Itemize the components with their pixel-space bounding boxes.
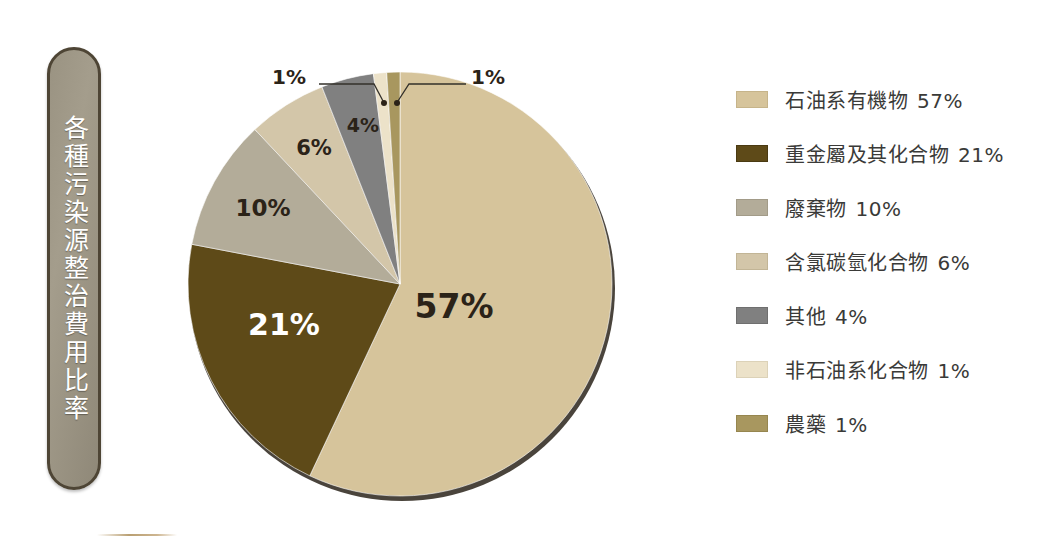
- legend-percent-value: 4%: [835, 305, 868, 329]
- pie-chart: 57%21%10%6%4% 1%1%: [178, 60, 628, 520]
- legend-label: 石油系有機物57%: [785, 85, 963, 114]
- page-hairline-divider: [97, 534, 177, 536]
- legend-percent-value: 1%: [938, 359, 971, 383]
- pie-slice-value-label: 6%: [296, 136, 332, 160]
- legend-item: 廢棄物10%: [736, 180, 1046, 234]
- legend-item: 非石油系化合物1%: [736, 342, 1046, 396]
- legend-label-text: 其他: [785, 305, 826, 329]
- legend-label-text: 廢棄物: [785, 197, 847, 221]
- legend-color-swatch: [736, 415, 768, 432]
- legend-label: 農藥1%: [785, 409, 868, 438]
- legend-percent-value: 1%: [835, 413, 868, 437]
- pie-slice-value-label: 57%: [415, 287, 494, 326]
- chart-title-text: 各種污染源整治費用比率: [62, 115, 87, 423]
- legend-label-text: 非石油系化合物: [785, 359, 929, 383]
- legend-color-swatch: [736, 145, 768, 162]
- pie-slices: [188, 72, 612, 496]
- legend-color-swatch: [736, 91, 768, 108]
- legend-label-text: 含氯碳氫化合物: [785, 251, 929, 275]
- callout-nonpetroleum-label: 1%: [272, 65, 306, 89]
- chart-legend: 石油系有機物57%重金屬及其化合物21%廢棄物10%含氯碳氫化合物6%其他4%非…: [736, 72, 1046, 450]
- legend-item: 其他4%: [736, 288, 1046, 342]
- legend-label: 含氯碳氫化合物6%: [785, 247, 970, 276]
- legend-item: 農藥1%: [736, 396, 1046, 450]
- legend-percent-value: 10%: [856, 197, 902, 221]
- pie-slice-value-label: 21%: [248, 307, 320, 342]
- legend-label: 廢棄物10%: [785, 193, 901, 222]
- legend-percent-value: 6%: [938, 251, 971, 275]
- legend-label-text: 重金屬及其化合物: [785, 143, 949, 167]
- legend-percent-value: 57%: [917, 89, 963, 113]
- legend-label: 重金屬及其化合物21%: [785, 139, 1004, 168]
- legend-color-swatch: [736, 361, 768, 378]
- legend-color-swatch: [736, 307, 768, 324]
- legend-label: 非石油系化合物1%: [785, 355, 970, 384]
- legend-item: 石油系有機物57%: [736, 72, 1046, 126]
- legend-percent-value: 21%: [958, 143, 1004, 167]
- legend-label-text: 石油系有機物: [785, 89, 908, 113]
- legend-label: 其他4%: [785, 301, 868, 330]
- pie-chart-svg: 57%21%10%6%4% 1%1%: [178, 60, 628, 520]
- callout-nonpetroleum-dot: [381, 100, 387, 106]
- pie-slice-value-label: 10%: [235, 195, 290, 221]
- legend-color-swatch: [736, 253, 768, 270]
- legend-label-text: 農藥: [785, 413, 826, 437]
- legend-item: 重金屬及其化合物21%: [736, 126, 1046, 180]
- legend-item: 含氯碳氫化合物6%: [736, 234, 1046, 288]
- callout-pesticide-label: 1%: [471, 65, 505, 89]
- pie-slice-value-label: 4%: [347, 114, 379, 136]
- chart-title-pill: 各種污染源整治費用比率: [47, 47, 101, 490]
- legend-color-swatch: [736, 199, 768, 216]
- callout-pesticide-dot: [394, 100, 400, 106]
